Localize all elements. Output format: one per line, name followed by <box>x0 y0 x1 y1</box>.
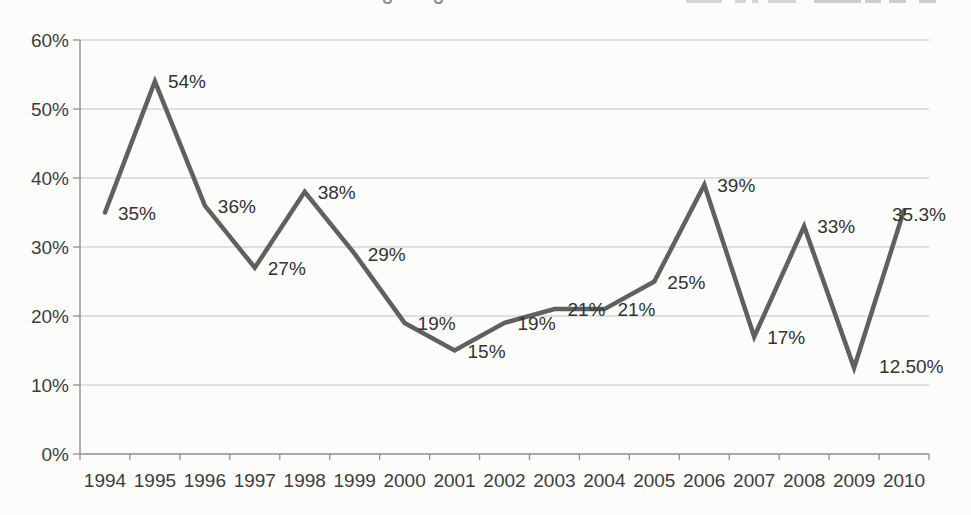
data-point-label: 12.50% <box>879 356 944 377</box>
data-point-label: 27% <box>268 258 306 279</box>
x-axis-tick-label: 1999 <box>334 470 376 491</box>
data-point-label: 54% <box>168 71 206 92</box>
data-point-label: 33% <box>817 216 855 237</box>
x-axis-tick-label: 2000 <box>383 470 425 491</box>
x-axis-tick-label: 1996 <box>184 470 226 491</box>
x-axis-tick-label: 2010 <box>883 470 925 491</box>
x-axis-tick-label: 1994 <box>84 470 127 491</box>
y-axis-tick-label: 40% <box>31 168 69 189</box>
data-series-line <box>105 81 904 367</box>
x-axis-tick-label: 2007 <box>733 470 775 491</box>
data-point-label: 29% <box>368 244 406 265</box>
data-point-label: 35% <box>118 203 156 224</box>
data-point-label: 36% <box>218 196 256 217</box>
y-axis-tick-label: 60% <box>31 30 69 51</box>
x-axis-tick-label: 1995 <box>134 470 176 491</box>
data-point-label: 25% <box>667 272 705 293</box>
x-axis-tick-label: 1998 <box>284 470 326 491</box>
data-point-label: 19% <box>418 313 456 334</box>
x-axis-tick-label: 2009 <box>833 470 875 491</box>
data-point-label: 19% <box>518 313 556 334</box>
data-point-label: 39% <box>717 175 755 196</box>
y-axis-tick-label: 0% <box>42 444 70 465</box>
scanned-figure-page: 0%10%20%30%40%50%60%19941995199619971998… <box>0 0 971 515</box>
x-axis-tick-label: 2004 <box>583 470 626 491</box>
x-axis-tick-label: 2003 <box>533 470 575 491</box>
cropped-text-fragment <box>752 0 758 3</box>
x-axis-tick-label: 2006 <box>683 470 725 491</box>
cropped-text-fragment <box>919 0 936 3</box>
y-axis-tick-label: 30% <box>31 237 69 258</box>
data-point-label: 38% <box>318 182 356 203</box>
cropped-glyph-fragment <box>383 0 392 4</box>
cropped-text-fragment <box>889 0 906 3</box>
y-axis-tick-label: 50% <box>31 99 69 120</box>
cropped-caption-remnant <box>0 0 971 16</box>
x-axis-tick-label: 2002 <box>483 470 525 491</box>
y-axis-tick-label: 20% <box>31 306 69 327</box>
x-axis-tick-label: 2008 <box>783 470 825 491</box>
cropped-text-fragment <box>686 0 722 3</box>
line-chart: 0%10%20%30%40%50%60%19941995199619971998… <box>0 0 971 515</box>
x-axis-tick-label: 1997 <box>234 470 276 491</box>
cropped-text-fragment <box>768 0 796 3</box>
data-point-label: 17% <box>767 327 805 348</box>
cropped-glyph-fragment <box>434 0 443 4</box>
data-point-label: 15% <box>468 341 506 362</box>
x-axis-tick-label: 2005 <box>633 470 675 491</box>
x-axis-tick-label: 2001 <box>433 470 475 491</box>
cropped-text-fragment <box>814 0 861 3</box>
y-axis-tick-label: 10% <box>31 375 69 396</box>
cropped-text-fragment <box>735 0 746 3</box>
cropped-text-fragment <box>865 0 881 3</box>
data-point-label: 21% <box>567 299 605 320</box>
data-point-label: 21% <box>617 299 655 320</box>
data-point-label: 35.3% <box>892 204 946 225</box>
